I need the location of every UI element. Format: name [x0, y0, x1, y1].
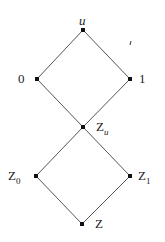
label-z: Z — [95, 217, 103, 230]
label-z1-sub: 1 — [146, 176, 151, 186]
edge-z0-z — [36, 176, 82, 224]
edge-u-1 — [83, 30, 130, 79]
node-0 — [35, 77, 39, 81]
diagram-graphic — [0, 0, 165, 242]
label-1: 1 — [139, 72, 146, 85]
edge-u-0 — [37, 30, 83, 79]
node-z0 — [34, 174, 38, 178]
edge-z1-z — [82, 176, 130, 224]
label-0: 0 — [18, 72, 25, 85]
node-zu — [81, 125, 85, 129]
nodes — [34, 28, 132, 226]
edge-0-zu — [37, 79, 83, 127]
label-z0-main: Z — [8, 168, 16, 183]
label-z0: Z0 — [8, 169, 20, 186]
edge-zu-z0 — [36, 127, 83, 176]
node-z — [80, 222, 84, 226]
label-zu-sub: u — [104, 127, 109, 137]
label-zu-main: Z — [96, 119, 104, 134]
lattice-diagram: u 0 1 Zu Z0 Z1 Z — [0, 0, 165, 242]
node-u — [81, 28, 85, 32]
node-1 — [128, 77, 132, 81]
label-u: u — [79, 14, 86, 27]
label-zu: Zu — [96, 120, 108, 137]
node-z1 — [128, 174, 132, 178]
label-z0-sub: 0 — [16, 176, 21, 186]
label-z1: Z1 — [138, 169, 150, 186]
stray-mark — [130, 41, 131, 45]
label-z1-main: Z — [138, 168, 146, 183]
